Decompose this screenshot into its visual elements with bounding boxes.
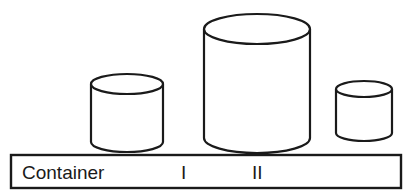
cylinder-container-1 xyxy=(91,74,163,152)
cylinder-container-2 xyxy=(204,14,310,153)
row-header-label: Container xyxy=(22,163,104,182)
container-1-label: I xyxy=(181,163,186,182)
cylinder-container-3 xyxy=(336,81,392,141)
container-2-label: II xyxy=(252,163,263,182)
